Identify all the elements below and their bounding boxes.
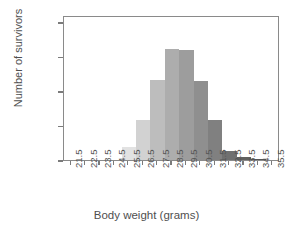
x-tick-label: 27.5 bbox=[161, 150, 171, 169]
x-tick-label: 35.5 bbox=[276, 150, 286, 169]
histogram-bar bbox=[165, 49, 179, 160]
histogram-figure: Number of survivors 0100200300400 21.522… bbox=[0, 0, 293, 236]
x-tick-label: 26.5 bbox=[146, 150, 156, 169]
x-tick-mark bbox=[228, 161, 229, 165]
x-tick-mark bbox=[142, 161, 143, 165]
y-axis-title: Number of survivors bbox=[12, 0, 24, 128]
x-tick-mark bbox=[170, 161, 171, 165]
x-tick-mark bbox=[156, 161, 157, 165]
x-tick-label: 25.5 bbox=[132, 150, 142, 169]
x-tick-mark bbox=[185, 161, 186, 165]
x-tick-mark bbox=[271, 161, 272, 165]
x-tick-mark bbox=[84, 161, 85, 165]
x-tick-label: 24.5 bbox=[117, 150, 127, 169]
x-tick-label: 28.5 bbox=[175, 150, 185, 169]
bars-group bbox=[64, 17, 278, 160]
x-tick-label: 23.5 bbox=[103, 150, 113, 169]
histogram-bar bbox=[179, 50, 193, 160]
x-tick-mark bbox=[98, 161, 99, 165]
x-tick-mark bbox=[214, 161, 215, 165]
x-tick-label: 33.5 bbox=[247, 150, 257, 169]
x-tick-label: 30.5 bbox=[204, 150, 214, 169]
x-tick-label: 34.5 bbox=[261, 150, 271, 169]
x-tick-mark bbox=[242, 161, 243, 165]
x-tick-label: 29.5 bbox=[189, 150, 199, 169]
x-tick-mark bbox=[127, 161, 128, 165]
x-tick-mark bbox=[257, 161, 258, 165]
histogram-bar bbox=[150, 80, 164, 160]
x-tick-label: 22.5 bbox=[89, 150, 99, 169]
plot-area bbox=[63, 16, 279, 161]
x-axis: 21.522.523.524.525.526.527.528.529.530.5… bbox=[0, 161, 293, 236]
x-tick-mark bbox=[199, 161, 200, 165]
x-tick-label: 32.5 bbox=[233, 150, 243, 169]
x-tick-label: 31.5 bbox=[218, 150, 228, 169]
x-tick-label: 21.5 bbox=[74, 150, 84, 169]
x-axis-title: Body weight (grams) bbox=[0, 209, 293, 221]
histogram-bar bbox=[194, 81, 208, 160]
x-tick-mark bbox=[113, 161, 114, 165]
x-tick-mark bbox=[70, 161, 71, 165]
